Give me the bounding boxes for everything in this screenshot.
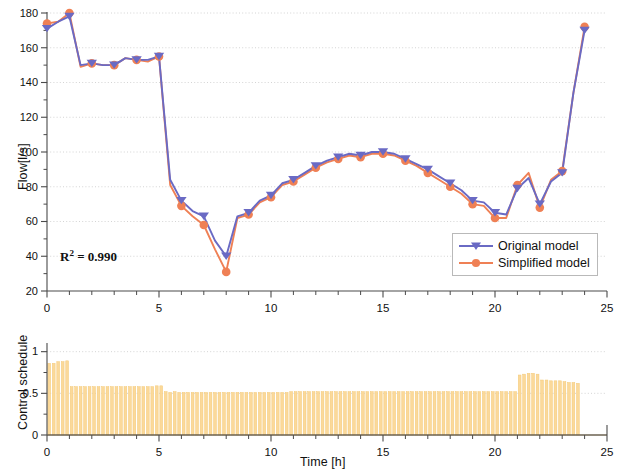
control-bar	[339, 392, 342, 435]
control-bar	[160, 386, 163, 435]
control-bar	[464, 392, 467, 435]
control-bar	[258, 393, 261, 436]
control-bar	[572, 383, 575, 436]
control-x-tick-label: 15	[377, 446, 390, 458]
time-x-axis-label: Time [h]	[300, 455, 345, 469]
control-bar	[308, 392, 311, 435]
control-bar	[361, 392, 364, 435]
control-bar	[48, 363, 51, 435]
control-bar	[554, 381, 557, 435]
control-bar	[227, 393, 230, 436]
control-bar	[357, 392, 360, 435]
flow-y-tick-label: 60	[26, 215, 38, 227]
control-bar	[57, 362, 60, 435]
control-bar	[75, 387, 78, 435]
control-bar	[317, 392, 320, 435]
control-bar	[411, 392, 414, 435]
legend-entry-original: Original model	[459, 237, 590, 254]
marker-simplified	[222, 268, 231, 277]
control-x-tick-label: 10	[265, 446, 278, 458]
r2-value: = 0.990	[74, 249, 117, 264]
flow-x-tick-label: 5	[156, 302, 162, 314]
control-bar	[523, 374, 526, 435]
control-bar	[200, 393, 203, 436]
control-bar	[559, 381, 562, 435]
control-bar	[164, 392, 167, 435]
flow-y-tick-label: 20	[26, 285, 38, 297]
control-bar	[124, 387, 127, 435]
legend-swatch-original-icon	[459, 239, 493, 253]
control-bar	[263, 393, 266, 436]
marker-original	[512, 185, 522, 192]
control-schedule-panel: 00.510510152025	[23, 343, 614, 458]
control-bar	[254, 393, 257, 436]
control-y-tick-label: 1	[32, 345, 38, 357]
flow-y-tick-label: 180	[20, 7, 38, 19]
control-bar	[182, 393, 185, 436]
control-bar	[500, 392, 503, 435]
control-bar	[214, 393, 217, 436]
control-bar	[393, 392, 396, 435]
control-bar	[84, 387, 87, 435]
control-bar	[482, 392, 485, 435]
control-bar	[267, 393, 270, 436]
control-bar	[527, 373, 530, 435]
flow-x-tick-label: 25	[601, 302, 614, 314]
control-bar	[281, 393, 284, 436]
control-bar	[133, 387, 136, 435]
control-bar	[249, 393, 252, 436]
control-bar	[491, 392, 494, 435]
control-bar	[245, 393, 248, 436]
marker-original	[42, 25, 52, 32]
control-bar	[442, 392, 445, 435]
series-line-original	[47, 16, 585, 256]
control-bar	[370, 392, 373, 435]
control-bar	[388, 392, 391, 435]
figure-root: 20406080100120140160180051015202500.5105…	[0, 0, 620, 476]
flow-y-tick-label: 120	[20, 111, 38, 123]
control-bar	[366, 392, 369, 435]
control-bar	[120, 387, 123, 435]
control-bar	[473, 392, 476, 435]
control-bar	[312, 392, 315, 435]
control-bar	[142, 387, 145, 435]
control-bar	[276, 393, 279, 436]
r2-annotation: R2 = 0.990	[60, 248, 117, 265]
control-bar	[290, 392, 293, 435]
control-bar	[191, 393, 194, 436]
control-bar	[415, 392, 418, 435]
control-bar	[487, 392, 490, 435]
control-bar	[137, 387, 140, 435]
control-bar	[352, 392, 355, 435]
control-bar	[335, 392, 338, 435]
flow-x-tick-label: 10	[265, 302, 278, 314]
control-bar	[285, 393, 288, 436]
flow-y-tick-label: 40	[26, 250, 38, 262]
control-bar	[178, 393, 181, 436]
control-bar	[128, 387, 131, 435]
control-bar	[406, 392, 409, 435]
control-bar	[563, 382, 566, 435]
control-bar	[384, 392, 387, 435]
control-bar	[303, 392, 306, 435]
control-bar	[70, 387, 73, 435]
control-bar	[518, 375, 521, 435]
control-bar	[478, 392, 481, 435]
control-schedule-y-axis-label: Control schedule	[16, 335, 30, 430]
control-bar	[424, 392, 427, 435]
flow-x-tick-label: 15	[377, 302, 390, 314]
flow-y-tick-label: 160	[20, 42, 38, 54]
control-bar	[209, 393, 212, 436]
marker-original	[199, 213, 209, 220]
control-bar	[146, 387, 149, 435]
control-bar	[545, 380, 548, 435]
control-x-tick-label: 20	[489, 446, 502, 458]
control-bar	[460, 392, 463, 435]
control-bar	[173, 392, 176, 435]
control-bar	[344, 392, 347, 435]
control-bar	[397, 392, 400, 435]
control-bar	[321, 392, 324, 435]
flow-x-tick-label: 20	[489, 302, 502, 314]
control-bar	[532, 373, 535, 435]
control-bar	[550, 381, 553, 435]
